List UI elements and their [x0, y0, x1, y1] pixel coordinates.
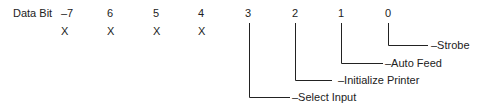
- auto-feed-label: –Auto Feed: [385, 57, 442, 69]
- strobe-label: –Strobe: [431, 39, 470, 51]
- connector-lines: [0, 0, 486, 108]
- bit-3-connector: [250, 23, 291, 98]
- bit-0-connector: [389, 23, 429, 46]
- bit-1-connector: [342, 23, 384, 64]
- bit-2-connector: [296, 23, 333, 81]
- initialize-printer-label: –Initialize Printer: [338, 74, 419, 86]
- select-input-label: –Select Input: [292, 91, 356, 103]
